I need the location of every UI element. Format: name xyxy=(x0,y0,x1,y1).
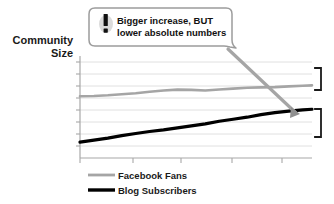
exclamation-icon-bar xyxy=(104,14,108,26)
legend-label-blog-subscribers: Blog Subscribers xyxy=(118,185,197,196)
y-axis-label-line1: Community xyxy=(13,34,74,46)
callout-text-line1: Bigger increase, BUT xyxy=(117,15,213,26)
community-size-line-chart: Community Size Bigger increase, BUT lowe… xyxy=(0,0,334,204)
chart-figure: Community Size Bigger increase, BUT lowe… xyxy=(0,0,334,204)
callout-text-line2: lower absolute numbers xyxy=(117,27,226,38)
callout-bubble: Bigger increase, BUT lower absolute numb… xyxy=(89,8,236,48)
legend-label-facebook-fans: Facebook Fans xyxy=(118,170,187,181)
exclamation-icon-dot xyxy=(104,29,108,33)
y-axis-label-line2: Size xyxy=(51,47,73,59)
